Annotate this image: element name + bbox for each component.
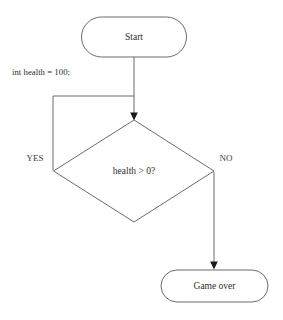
node-gameover-label: Game over	[194, 281, 237, 291]
edge-no-to-gameover-arrowhead	[210, 262, 218, 270]
flowchart-svg: Start int health = 100; health > 0? YES …	[0, 0, 283, 320]
node-start-label: Start	[125, 32, 143, 42]
edge-start-to-decision-arrowhead	[130, 113, 138, 121]
node-decision-label: health > 0?	[113, 166, 155, 176]
edge-label-init-code: int health = 100;	[12, 67, 70, 77]
edge-label-yes: YES	[26, 153, 43, 163]
edge-label-no: NO	[220, 153, 233, 163]
flowchart-canvas: Start int health = 100; health > 0? YES …	[0, 0, 283, 320]
